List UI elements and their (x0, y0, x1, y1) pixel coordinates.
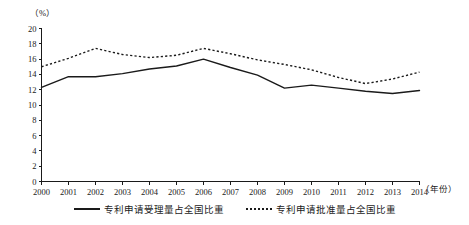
y-tick-label: 14 (28, 69, 37, 79)
series-line-applications-accepted (42, 59, 420, 93)
y-tick-label: 4 (32, 146, 37, 156)
x-tick-label: 2002 (87, 187, 104, 197)
series-line-patents-granted (42, 48, 420, 83)
y-axis-ticks: 02468101214161820 (28, 24, 42, 187)
y-tick-label: 20 (28, 24, 37, 34)
patent-share-line-chart: 02468101214161820 2000200120022003200420… (0, 0, 469, 225)
x-tick-label: 2003 (114, 187, 131, 197)
x-tick-label: 2013 (384, 187, 401, 197)
x-axis-ticks: 2000200120022003200420052006200720082009… (33, 182, 429, 197)
x-tick-label: 2000 (33, 187, 50, 197)
legend-swatch-solid-line-icon (74, 208, 100, 210)
x-tick-label: 2011 (330, 187, 347, 197)
y-axis-unit-label: （%） (30, 8, 55, 18)
x-tick-label: 2005 (168, 187, 185, 197)
x-tick-label: 2008 (249, 187, 266, 197)
y-tick-label: 10 (28, 100, 37, 110)
legend-item-patents-granted: 专利申请批准量占全国比重 (246, 202, 396, 216)
y-tick-label: 18 (28, 39, 37, 49)
x-tick-label: 2007 (222, 187, 239, 197)
y-tick-label: 12 (28, 85, 37, 95)
y-tick-label: 8 (32, 115, 36, 125)
y-tick-label: 2 (32, 161, 36, 171)
x-tick-label: 2012 (357, 187, 374, 197)
x-tick-label: 2006 (195, 187, 212, 197)
legend-swatch-dotted-line-icon (246, 208, 272, 210)
y-tick-label: 6 (32, 131, 36, 141)
x-tick-label: 2004 (141, 187, 159, 197)
legend-label-applications-accepted: 专利申请受理量占全国比重 (104, 202, 224, 216)
legend-label-patents-granted: 专利申请批准量占全国比重 (276, 202, 396, 216)
x-tick-label: 2010 (303, 187, 320, 197)
x-tick-label: 2009 (276, 187, 293, 197)
chart-legend: 专利申请受理量占全国比重 专利申请批准量占全国比重 (0, 202, 469, 216)
y-tick-label: 16 (28, 54, 37, 64)
x-axis-unit-label: （年份） (421, 184, 457, 194)
y-tick-label: 0 (32, 177, 36, 187)
x-tick-label: 2001 (60, 187, 77, 197)
chart-plot-area: 02468101214161820 2000200120022003200420… (0, 0, 469, 225)
legend-item-applications-accepted: 专利申请受理量占全国比重 (74, 202, 224, 216)
